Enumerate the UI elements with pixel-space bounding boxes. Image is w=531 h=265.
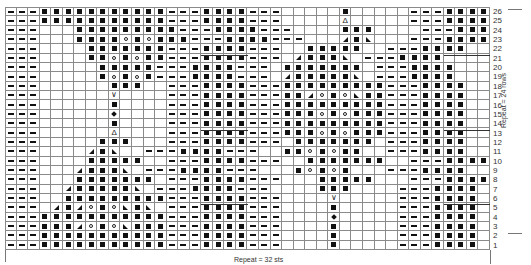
purl-symbol — [19, 132, 25, 134]
chart-cell: Δ — [109, 128, 121, 137]
chart-cell — [351, 35, 363, 44]
chart-cell — [467, 185, 479, 194]
chart-cell — [328, 241, 340, 250]
chart-cell — [340, 100, 352, 109]
chart-cell — [40, 203, 52, 212]
knit-tbl-symbol — [470, 177, 475, 182]
chart-cell — [236, 35, 248, 44]
row-number: 13 — [493, 129, 502, 138]
chart-cell — [201, 100, 213, 109]
left-decrease-icon — [343, 55, 348, 60]
chart-cell — [213, 157, 225, 166]
chart-cell — [40, 110, 52, 119]
knit-tbl-symbol — [331, 233, 336, 238]
knit-tbl-symbol — [354, 27, 359, 32]
chart-cell — [317, 91, 329, 100]
chart-cell — [421, 91, 433, 100]
chart-cell — [455, 147, 467, 156]
chart-cell — [63, 72, 75, 81]
chart-cell — [375, 157, 387, 166]
purl-symbol — [30, 225, 36, 227]
knit-tbl-symbol — [204, 121, 209, 126]
purl-symbol — [169, 244, 175, 246]
purl-symbol — [192, 234, 198, 236]
chart-cell — [467, 7, 479, 16]
knit-tbl-symbol — [227, 18, 232, 23]
knit-tbl-symbol — [123, 186, 128, 191]
knit-tbl-symbol — [354, 158, 359, 163]
purl-symbol — [250, 197, 256, 199]
knit-tbl-symbol — [77, 18, 82, 23]
chart-cell — [28, 203, 40, 212]
chart-cell — [224, 100, 236, 109]
knit-tbl-symbol — [435, 168, 440, 173]
chart-cell — [97, 72, 109, 81]
chart-cell — [155, 194, 167, 203]
chart-cell — [294, 44, 306, 53]
chart-cell — [63, 82, 75, 91]
purl-symbol — [192, 122, 198, 124]
purl-symbol — [180, 104, 186, 106]
purl-symbol — [180, 188, 186, 190]
purl-symbol — [180, 113, 186, 115]
purl-symbol — [192, 48, 198, 50]
chart-cell — [305, 7, 317, 16]
chart-cell — [51, 185, 63, 194]
knit-tbl-symbol — [354, 149, 359, 154]
chart-cell — [409, 91, 421, 100]
knit-tbl-symbol — [77, 9, 82, 14]
purl-symbol — [19, 20, 25, 22]
chart-cell — [144, 138, 156, 147]
chart-cell — [155, 16, 167, 25]
chart-cell — [236, 166, 248, 175]
purl-symbol — [261, 20, 267, 22]
chart-cell — [351, 119, 363, 128]
purl-symbol — [19, 104, 25, 106]
chart-cell — [409, 110, 421, 119]
chart-cell — [409, 128, 421, 137]
chart-cell — [375, 82, 387, 91]
knit-tbl-symbol — [158, 46, 163, 51]
chart-cell — [259, 54, 271, 63]
chart-cell — [247, 231, 259, 240]
chart-cell — [305, 119, 317, 128]
chart-cell — [375, 26, 387, 35]
chart-cell — [340, 166, 352, 175]
purl-symbol — [273, 104, 279, 106]
knit-tbl-symbol — [458, 168, 463, 173]
chart-cell — [305, 26, 317, 35]
knit-tbl-symbol — [42, 214, 47, 219]
chart-cell — [340, 26, 352, 35]
chart-row — [5, 110, 490, 119]
chart-cell — [120, 82, 132, 91]
purl-symbol — [169, 94, 175, 96]
knit-tbl-symbol — [308, 139, 313, 144]
chart-cell — [467, 213, 479, 222]
knit-tbl-symbol — [227, 93, 232, 98]
knit-tbl-symbol — [447, 121, 452, 126]
knit-tbl-symbol — [296, 102, 301, 107]
chart-cell — [17, 128, 29, 137]
chart-cell — [63, 16, 75, 25]
chart-cell — [421, 241, 433, 250]
chart-cell — [40, 16, 52, 25]
chart-cell — [421, 35, 433, 44]
chart-cell — [51, 128, 63, 137]
chart-cell — [294, 138, 306, 147]
chart-cell — [317, 63, 329, 72]
knit-tbl-symbol — [412, 65, 417, 70]
purl-symbol — [192, 38, 198, 40]
chart-cell — [144, 72, 156, 81]
chart-cell — [120, 16, 132, 25]
chart-cell — [40, 82, 52, 91]
chart-cell — [5, 185, 17, 194]
chart-cell — [190, 54, 202, 63]
chart-cell — [375, 194, 387, 203]
chart-cell — [386, 128, 398, 137]
knit-tbl-symbol — [481, 158, 486, 163]
chart-cell — [247, 91, 259, 100]
chart-cell — [201, 157, 213, 166]
purl-symbol — [192, 197, 198, 199]
knit-tbl-symbol — [112, 102, 117, 107]
purl-symbol — [30, 20, 36, 22]
